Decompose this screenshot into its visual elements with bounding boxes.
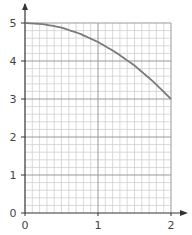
y-tick-label: 3 bbox=[10, 93, 17, 106]
y-tick-label: 1 bbox=[10, 169, 17, 182]
x-axis-arrow-icon bbox=[180, 210, 188, 216]
y-tick-label: 5 bbox=[10, 17, 17, 30]
y-tick-label: 0 bbox=[10, 207, 17, 220]
y-axis-arrow-icon bbox=[22, 3, 28, 10]
x-tick-label: 1 bbox=[95, 219, 102, 232]
x-tick-label: 2 bbox=[168, 219, 175, 232]
axes bbox=[21, 3, 188, 216]
chart: 012345012 bbox=[0, 0, 192, 235]
x-tick-label: 0 bbox=[22, 219, 29, 232]
tick-labels: 012345012 bbox=[10, 17, 175, 232]
y-tick-label: 4 bbox=[10, 55, 17, 68]
y-tick-label: 2 bbox=[10, 131, 17, 144]
